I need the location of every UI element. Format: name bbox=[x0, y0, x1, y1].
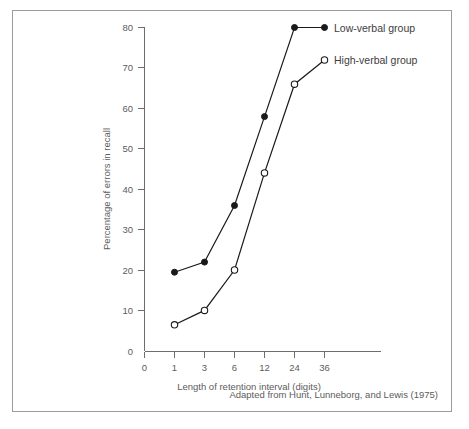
legend-label-high-verbal: High-verbal group bbox=[334, 54, 418, 66]
y-tick-label-40: 40 bbox=[122, 184, 133, 195]
data-point-high-verbal-24 bbox=[291, 81, 297, 87]
data-point-high-verbal-6 bbox=[231, 267, 237, 273]
data-point-low-verbal-12 bbox=[262, 114, 268, 120]
x-tick-label-3: 3 bbox=[202, 362, 207, 373]
series-low-verbal bbox=[172, 25, 328, 276]
y-tick-label-20: 20 bbox=[122, 265, 133, 276]
x-tick-label-24: 24 bbox=[289, 362, 300, 373]
series-high-verbal-line bbox=[175, 60, 325, 325]
legend-marker-low-verbal bbox=[322, 25, 328, 31]
legend-label-low-verbal: Low-verbal group bbox=[334, 22, 415, 34]
y-axis-title: Percentage of errors in recall bbox=[101, 128, 112, 250]
data-point-low-verbal-24 bbox=[292, 25, 298, 31]
series-high-verbal bbox=[171, 57, 327, 328]
clipped-page-caption bbox=[0, 0, 469, 2]
y-tick-label-10: 10 bbox=[122, 305, 133, 316]
source-attribution: Adapted from Hunt, Lunneborg, and Lewis … bbox=[229, 389, 438, 400]
data-point-high-verbal-1 bbox=[171, 322, 177, 328]
y-axis-tick-labels: 0 10 20 30 40 50 60 70 80 bbox=[122, 22, 133, 357]
y-tick-label-0: 0 bbox=[128, 346, 133, 357]
series-low-verbal-line bbox=[175, 28, 325, 273]
x-tick-label-1: 1 bbox=[172, 362, 177, 373]
data-point-high-verbal-12 bbox=[261, 170, 267, 176]
x-tick-label-0: 0 bbox=[142, 362, 147, 373]
x-tick-label-12: 12 bbox=[259, 362, 270, 373]
y-tick-label-70: 70 bbox=[122, 62, 133, 73]
legend-marker-high-verbal bbox=[321, 57, 327, 63]
x-axis-tick-labels: 0 1 3 6 12 24 36 bbox=[142, 362, 330, 373]
y-tick-label-60: 60 bbox=[122, 103, 133, 114]
data-point-low-verbal-6 bbox=[232, 203, 238, 209]
y-tick-label-30: 30 bbox=[122, 224, 133, 235]
y-tick-label-50: 50 bbox=[122, 143, 133, 154]
y-tick-label-80: 80 bbox=[122, 22, 133, 33]
y-axis-ticks bbox=[138, 28, 145, 311]
figure-frame: 0 10 20 30 40 50 60 70 80 Percentage of … bbox=[12, 10, 452, 412]
x-tick-label-6: 6 bbox=[232, 362, 237, 373]
x-tick-label-36: 36 bbox=[319, 362, 330, 373]
x-axis-ticks bbox=[145, 352, 325, 359]
data-point-low-verbal-1 bbox=[172, 269, 178, 275]
data-point-low-verbal-3 bbox=[202, 259, 208, 265]
data-point-high-verbal-3 bbox=[201, 307, 207, 313]
chart-canvas: 0 10 20 30 40 50 60 70 80 Percentage of … bbox=[13, 11, 451, 411]
